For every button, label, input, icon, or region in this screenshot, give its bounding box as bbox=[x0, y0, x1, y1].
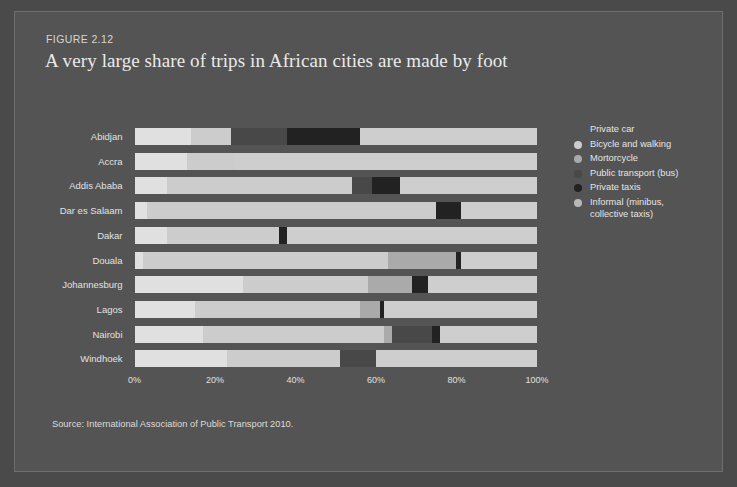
legend-item[interactable]: Informal (minibus, collective taxis) bbox=[573, 195, 723, 220]
legend-swatch-icon bbox=[574, 170, 582, 178]
bar-segment bbox=[400, 177, 537, 194]
bar-segment bbox=[187, 153, 235, 170]
bar-segment bbox=[392, 326, 432, 343]
bar-segment bbox=[376, 350, 537, 367]
legend-swatch-icon bbox=[574, 155, 582, 163]
legend-item[interactable]: Private taxis bbox=[573, 180, 723, 195]
legend-swatch-icon bbox=[574, 184, 582, 192]
bar-segment bbox=[428, 276, 537, 293]
legend-item-label: Bicycle and walking bbox=[590, 139, 671, 149]
bar-segment bbox=[440, 326, 537, 343]
legend-swatch-icon bbox=[574, 199, 582, 207]
bar-segment bbox=[412, 276, 428, 293]
category-label: Nairobi bbox=[13, 326, 123, 343]
source-note: Source: International Association of Pub… bbox=[52, 419, 293, 429]
bar-segment bbox=[372, 177, 400, 194]
stacked-bar[interactable] bbox=[135, 153, 538, 170]
bar-segment bbox=[143, 252, 389, 269]
x-axis-tick-label: 0% bbox=[128, 375, 141, 385]
legend-item-label: Public transport (bus) bbox=[590, 168, 678, 178]
chart-row: Nairobi bbox=[0, 326, 537, 343]
bar-segment bbox=[167, 177, 352, 194]
x-axis-tick-label: 40% bbox=[286, 375, 304, 385]
stacked-bar[interactable] bbox=[135, 202, 538, 219]
chart-row: Dakar bbox=[0, 227, 537, 244]
bar-segment bbox=[203, 326, 384, 343]
legend-item-label: Private taxis bbox=[590, 182, 641, 192]
bar-segment bbox=[360, 128, 537, 145]
bar-segment bbox=[384, 326, 392, 343]
bar-segment bbox=[147, 202, 437, 219]
legend-item-label: Private car bbox=[590, 124, 634, 134]
stacked-bar[interactable] bbox=[135, 301, 538, 318]
legend-item[interactable]: Private car bbox=[573, 122, 723, 137]
bar-segment bbox=[191, 128, 231, 145]
bar-segment bbox=[135, 202, 147, 219]
x-axis-tick-label: 20% bbox=[206, 375, 224, 385]
category-label: Dakar bbox=[13, 227, 123, 244]
bar-segment bbox=[368, 276, 412, 293]
legend-swatch-icon bbox=[574, 141, 582, 149]
bar-segment bbox=[135, 153, 187, 170]
legend-item[interactable]: Mortorcycle bbox=[573, 151, 723, 166]
category-label: Abidjan bbox=[13, 128, 123, 145]
chart-row: Windhoek bbox=[0, 350, 537, 367]
bar-segment bbox=[135, 301, 195, 318]
bar-segment bbox=[340, 350, 376, 367]
chart-row: Accra bbox=[0, 153, 537, 170]
stacked-bar-chart: AbidjanAccraAddis AbabaDar es SalaamDaka… bbox=[0, 0, 737, 487]
chart-row: Addis Ababa bbox=[0, 177, 537, 194]
bar-segment bbox=[287, 227, 537, 244]
bar-segment bbox=[135, 276, 244, 293]
stacked-bar[interactable] bbox=[135, 276, 538, 293]
bar-segment bbox=[227, 350, 340, 367]
stacked-bar[interactable] bbox=[135, 177, 538, 194]
category-label: Dar es Salaam bbox=[13, 202, 123, 219]
category-label: Douala bbox=[13, 252, 123, 269]
bar-segment bbox=[135, 177, 167, 194]
bar-segment bbox=[432, 326, 440, 343]
bar-segment bbox=[436, 202, 460, 219]
bar-segment bbox=[135, 227, 167, 244]
chart-row: Abidjan bbox=[0, 128, 537, 145]
category-label: Johannesburg bbox=[13, 276, 123, 293]
bar-segment bbox=[388, 252, 456, 269]
legend-item-label: Mortorcycle bbox=[590, 153, 638, 163]
bar-segment bbox=[360, 301, 380, 318]
category-label: Addis Ababa bbox=[13, 177, 123, 194]
stacked-bar[interactable] bbox=[135, 227, 538, 244]
chart-row: Dar es Salaam bbox=[0, 202, 537, 219]
stacked-bar[interactable] bbox=[135, 252, 538, 269]
bar-segment bbox=[461, 202, 537, 219]
bar-segment bbox=[384, 301, 537, 318]
legend-item[interactable]: Public transport (bus) bbox=[573, 166, 723, 181]
category-label: Lagos bbox=[13, 301, 123, 318]
bar-segment bbox=[235, 153, 537, 170]
chart-legend: Private carBicycle and walkingMortorcycl… bbox=[573, 122, 723, 220]
bar-segment bbox=[279, 227, 287, 244]
bar-segment bbox=[461, 252, 537, 269]
stacked-bar[interactable] bbox=[135, 350, 538, 367]
bar-segment bbox=[135, 326, 203, 343]
bar-segment bbox=[287, 128, 359, 145]
bar-segment bbox=[167, 227, 280, 244]
stacked-bar[interactable] bbox=[135, 128, 538, 145]
figure-page: FIGURE 2.12 A very large share of trips … bbox=[0, 0, 737, 487]
category-label: Windhoek bbox=[13, 350, 123, 367]
legend-item-label: Informal (minibus, collective taxis) bbox=[590, 197, 664, 219]
chart-row: Lagos bbox=[0, 301, 537, 318]
x-axis-tick-label: 80% bbox=[447, 375, 465, 385]
x-axis-tick-label: 100% bbox=[525, 375, 548, 385]
category-label: Accra bbox=[13, 153, 123, 170]
stacked-bar[interactable] bbox=[135, 326, 538, 343]
bar-segment bbox=[231, 128, 287, 145]
x-axis-tick-label: 60% bbox=[367, 375, 385, 385]
chart-row: Johannesburg bbox=[0, 276, 537, 293]
bar-segment bbox=[135, 350, 228, 367]
bar-segment bbox=[135, 128, 191, 145]
bar-segment bbox=[352, 177, 372, 194]
chart-row: Douala bbox=[0, 252, 537, 269]
bar-segment bbox=[243, 276, 368, 293]
legend-item[interactable]: Bicycle and walking bbox=[573, 137, 723, 152]
bar-segment bbox=[135, 252, 143, 269]
